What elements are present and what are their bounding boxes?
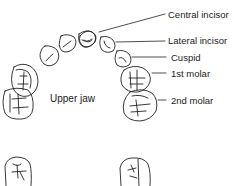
leader-lines [99,14,166,100]
left-first-molar-icon [12,64,39,96]
label-lateral-incisor: Lateral incisor [168,36,227,46]
left-cuspid-icon [40,46,59,66]
label-central-incisor: Central incisor [168,10,229,20]
left-lateral-incisor-icon [59,35,76,52]
label-second-molar: 2nd molar [171,96,213,106]
leader-central-incisor [99,14,165,32]
teeth-drawing [0,0,234,186]
first-molar-tooth-icon [121,66,150,92]
second-molar-tooth-icon [123,90,157,121]
label-cuspid: Cuspid [171,53,201,63]
cuspid-tooth-icon [115,50,131,67]
caption-upper-jaw: Upper jaw [50,94,95,104]
lateral-incisor-tooth-icon [100,36,115,52]
lower-right-molar-icon [120,158,150,186]
lower-left-molar-icon [5,157,31,186]
dental-diagram: Central incisor Lateral incisor Cuspid 1… [0,0,234,186]
leader-lateral-incisor [116,41,165,42]
left-second-molar-icon [3,88,33,119]
label-first-molar: 1st molar [171,69,210,79]
